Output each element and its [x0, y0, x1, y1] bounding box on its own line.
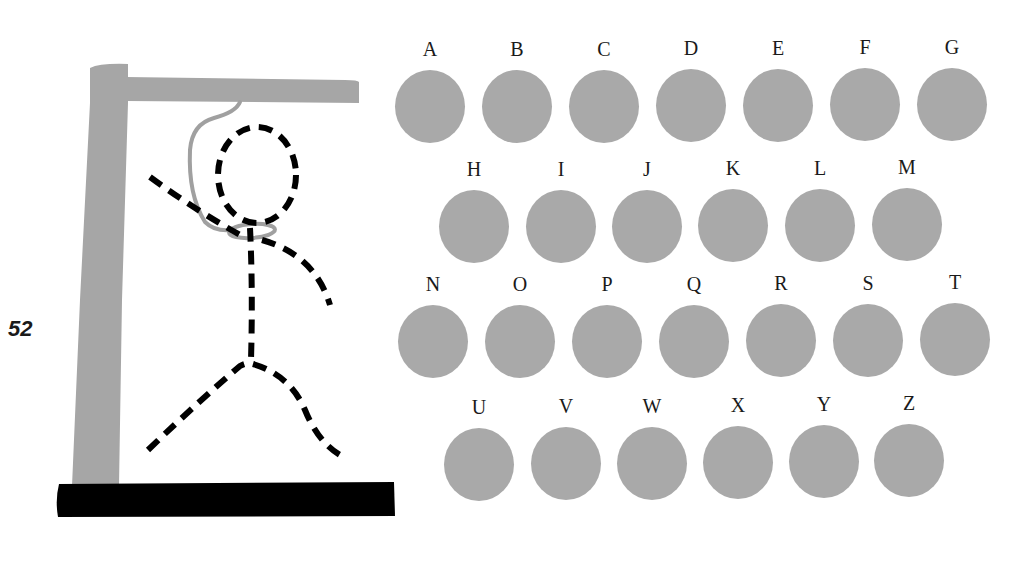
letter-label: U — [444, 396, 514, 418]
letter-label: Z — [874, 392, 944, 414]
letter-button-b[interactable]: B — [482, 38, 552, 148]
letter-label: W — [617, 395, 687, 417]
letter-button-f[interactable]: F — [830, 36, 900, 146]
letter-label: X — [703, 394, 773, 416]
letter-label: D — [656, 37, 726, 59]
letter-label: V — [531, 395, 601, 417]
letter-circle — [703, 426, 773, 499]
letter-circle — [833, 304, 903, 377]
letter-label: G — [917, 36, 987, 58]
letter-button-c[interactable]: C — [569, 38, 639, 148]
letter-board: A B C D E F G H I J K L — [0, 0, 1027, 561]
letter-circle — [656, 69, 726, 142]
letter-label: E — [743, 37, 813, 59]
letter-circle — [698, 189, 768, 262]
letter-button-y[interactable]: Y — [789, 393, 859, 503]
letter-button-u[interactable]: U — [444, 396, 514, 506]
letter-button-p[interactable]: P — [572, 273, 642, 383]
letter-button-h[interactable]: H — [439, 158, 509, 268]
letter-label: O — [485, 273, 555, 295]
letter-button-o[interactable]: O — [485, 273, 555, 383]
letter-circle — [482, 70, 552, 143]
letter-label: I — [526, 158, 596, 180]
letter-button-j[interactable]: J — [612, 158, 682, 268]
letter-label: S — [833, 272, 903, 294]
letter-circle — [746, 304, 816, 377]
letter-circle — [526, 190, 596, 263]
letter-button-l[interactable]: L — [785, 157, 855, 267]
letter-label: K — [698, 157, 768, 179]
letter-label: H — [439, 158, 509, 180]
letter-circle — [617, 427, 687, 500]
letter-label: J — [612, 158, 682, 180]
letter-button-m[interactable]: M — [872, 156, 942, 266]
letter-label: P — [572, 273, 642, 295]
letter-label: L — [785, 157, 855, 179]
letter-label: T — [920, 271, 990, 293]
letter-circle — [485, 305, 555, 378]
letter-circle — [789, 425, 859, 498]
letter-circle — [398, 305, 468, 378]
letter-circle — [917, 68, 987, 141]
letter-circle — [785, 189, 855, 262]
letter-button-x[interactable]: X — [703, 394, 773, 504]
letter-label: R — [746, 272, 816, 294]
letter-label: B — [482, 38, 552, 60]
letter-label: A — [395, 38, 465, 60]
letter-circle — [659, 305, 729, 378]
letter-button-a[interactable]: A — [395, 38, 465, 148]
letter-button-t[interactable]: T — [920, 271, 990, 381]
letter-circle — [395, 70, 465, 143]
letter-label: M — [872, 156, 942, 178]
letter-circle — [531, 427, 601, 500]
letter-circle — [569, 70, 639, 143]
letter-button-v[interactable]: V — [531, 395, 601, 505]
letter-circle — [872, 188, 942, 261]
letter-button-n[interactable]: N — [398, 273, 468, 383]
letter-circle — [444, 428, 514, 501]
letter-button-d[interactable]: D — [656, 37, 726, 147]
letter-button-e[interactable]: E — [743, 37, 813, 147]
letter-button-g[interactable]: G — [917, 36, 987, 146]
letter-circle — [439, 190, 509, 263]
letter-button-k[interactable]: K — [698, 157, 768, 267]
letter-button-w[interactable]: W — [617, 395, 687, 505]
letter-button-z[interactable]: Z — [874, 392, 944, 502]
letter-circle — [572, 305, 642, 378]
letter-label: C — [569, 38, 639, 60]
letter-circle — [830, 68, 900, 141]
letter-label: Y — [789, 393, 859, 415]
letter-button-r[interactable]: R — [746, 272, 816, 382]
letter-circle — [874, 424, 944, 497]
letter-circle — [612, 190, 682, 263]
letter-label: Q — [659, 273, 729, 295]
letter-circle — [920, 303, 990, 376]
letter-label: F — [830, 36, 900, 58]
letter-button-q[interactable]: Q — [659, 273, 729, 383]
letter-button-i[interactable]: I — [526, 158, 596, 268]
letter-button-s[interactable]: S — [833, 272, 903, 382]
letter-label: N — [398, 273, 468, 295]
letter-circle — [743, 69, 813, 142]
